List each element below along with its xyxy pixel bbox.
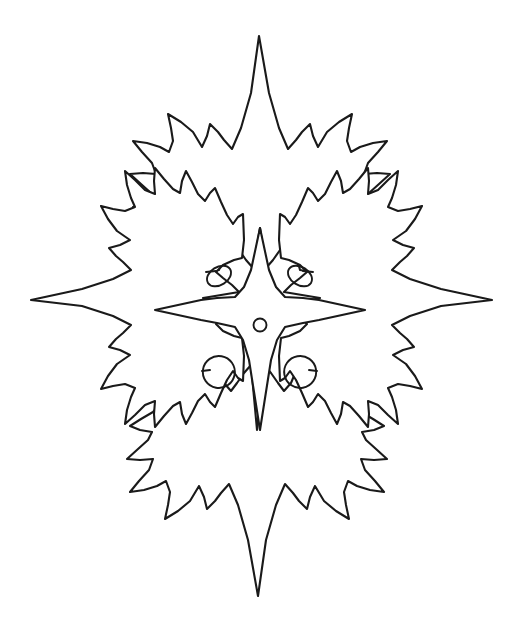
joint-top-left bbox=[206, 271, 216, 272]
joint-bottom-right bbox=[309, 370, 317, 371]
joint-bottom-left bbox=[202, 370, 210, 371]
center-hole-icon bbox=[254, 319, 267, 332]
joint-top-right bbox=[303, 271, 313, 272]
snowflake-star-drawing bbox=[0, 0, 522, 634]
page-canvas: Snowflake Star Ornament Outline Black ou… bbox=[0, 0, 522, 634]
